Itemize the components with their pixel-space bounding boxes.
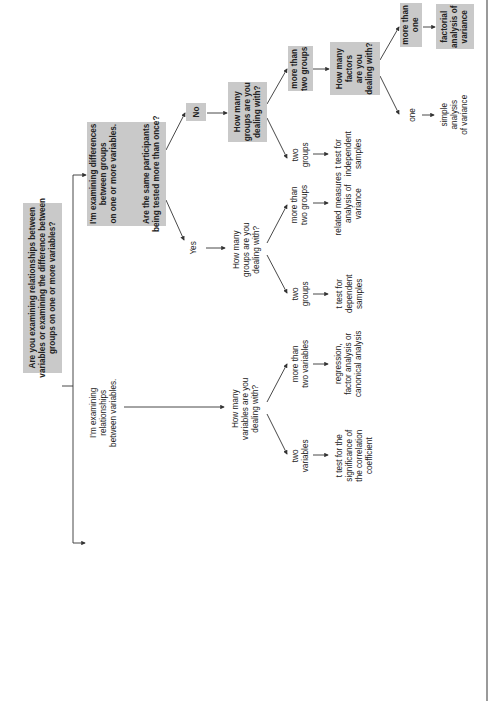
- root-question-text: Are you examining relationships between …: [28, 198, 58, 378]
- no-groups-question-box: How many groups are you dealing with?: [228, 82, 267, 142]
- differences-statement: I'm examining differences between groups…: [87, 122, 121, 226]
- yes-two-groups-label: two groups: [288, 280, 313, 308]
- two-variables-label: two variables: [288, 440, 313, 472]
- same-participants-question: Are the same participants being tested m…: [139, 122, 166, 226]
- flowchart-page: Are you examining relationships between …: [0, 0, 491, 701]
- no-answer-box: No: [186, 103, 206, 121]
- yes-groups-question: How many groups are you dealing with?: [226, 222, 266, 277]
- variables-question: How many variables are you dealing with?: [226, 378, 266, 440]
- root-question-box: Are you examining relationships between …: [23, 203, 62, 373]
- one-factor-label: one: [406, 104, 420, 126]
- relationships-statement: I'm examining relationships between vari…: [86, 383, 122, 443]
- regression-result: regression, factor analysis or canonical…: [330, 333, 368, 395]
- t-test-dependent-result: t test for dependent samples: [330, 276, 368, 312]
- yes-answer-label: Yes: [185, 238, 203, 258]
- yes-more-than-two-groups-label: more than two groups: [288, 183, 313, 227]
- no-two-groups-label: two groups: [288, 141, 313, 169]
- related-measures-anova-result: related measures analysis of variance: [330, 176, 368, 232]
- factorial-anova-result-box: factorial analysis of variance: [436, 4, 474, 49]
- more-than-two-variables-label: more than two variables: [288, 340, 313, 388]
- simple-anova-result: simple analysis of variance: [436, 95, 474, 135]
- more-than-one-factor-box: more than one: [400, 3, 422, 47]
- no-more-than-two-groups-box: more than two groups: [288, 46, 313, 91]
- t-test-correlation-result: t test for the significance of the corre…: [330, 430, 380, 482]
- factors-question-box: How many factors are you dealing with?: [330, 42, 380, 95]
- t-test-independent-result: t test for independent samples: [330, 134, 368, 174]
